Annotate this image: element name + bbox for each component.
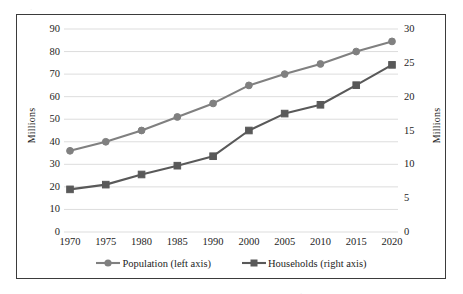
legend-circle-marker-icon (95, 257, 121, 269)
right-axis-tick: 15 (404, 125, 428, 136)
data-point (210, 100, 217, 107)
x-axis-tick: 2005 (265, 236, 305, 247)
right-axis-tick: 25 (404, 57, 428, 68)
chart-series-2 (67, 62, 396, 193)
data-point (353, 82, 360, 89)
data-point (389, 62, 396, 69)
chart-series-1 (67, 38, 396, 154)
x-axis-tick: 2020 (372, 236, 412, 247)
left-axis-tick: 60 (36, 91, 60, 102)
data-point (246, 127, 253, 134)
legend-label: Households (right axis) (268, 258, 367, 269)
legend-label: Population (left axis) (122, 258, 211, 269)
data-point (138, 127, 145, 134)
data-point (281, 71, 288, 78)
data-point (102, 138, 109, 145)
x-axis-tick: 2000 (229, 236, 269, 247)
data-point (138, 171, 145, 178)
chart-gridlines (64, 29, 398, 232)
left-axis-tick: 10 (36, 203, 60, 214)
chart-legend: Population (left axis)Households (right … (16, 252, 446, 274)
data-point (174, 162, 181, 169)
chart-canvas (0, 0, 463, 294)
left-axis-tick: 50 (36, 113, 60, 124)
left-axis-tick: 40 (36, 136, 60, 147)
left-axis-tick: 70 (36, 68, 60, 79)
left-axis-tick: 80 (36, 46, 60, 57)
data-point (210, 153, 217, 160)
left-axis-tick: 20 (36, 181, 60, 192)
left-axis-tick: 30 (36, 158, 60, 169)
right-axis-title: Millions (431, 86, 442, 166)
chart-plot-area (0, 0, 463, 294)
legend-item-1[interactable]: Population (left axis) (95, 257, 211, 269)
data-point (317, 61, 324, 68)
x-axis-tick: 1975 (86, 236, 126, 247)
right-axis-tick: 30 (404, 23, 428, 34)
legend-item-2[interactable]: Households (right axis) (241, 257, 367, 269)
data-point (317, 101, 324, 108)
data-point (353, 48, 360, 55)
data-point (389, 38, 396, 45)
data-point (245, 82, 252, 89)
x-axis-tick: 1980 (122, 236, 162, 247)
data-point (67, 147, 74, 154)
left-axis-tick: 90 (36, 23, 60, 34)
data-point (281, 110, 288, 117)
x-axis-tick: 1990 (193, 236, 233, 247)
data-point (174, 114, 181, 121)
x-axis-tick: 1970 (50, 236, 90, 247)
right-axis-tick: 5 (404, 192, 428, 203)
x-axis-tick: 1985 (157, 236, 197, 247)
right-axis-tick: 10 (404, 158, 428, 169)
x-axis-tick: 2010 (300, 236, 340, 247)
chart-screenshot: . . Millions Millions 010203040506070809… (0, 0, 463, 294)
data-point (102, 181, 109, 188)
x-axis-tick: 2015 (336, 236, 376, 247)
data-point (67, 186, 74, 193)
left-axis-title: Millions (26, 86, 37, 166)
right-axis-tick: 20 (404, 91, 428, 102)
legend-square-marker-icon (241, 257, 267, 269)
